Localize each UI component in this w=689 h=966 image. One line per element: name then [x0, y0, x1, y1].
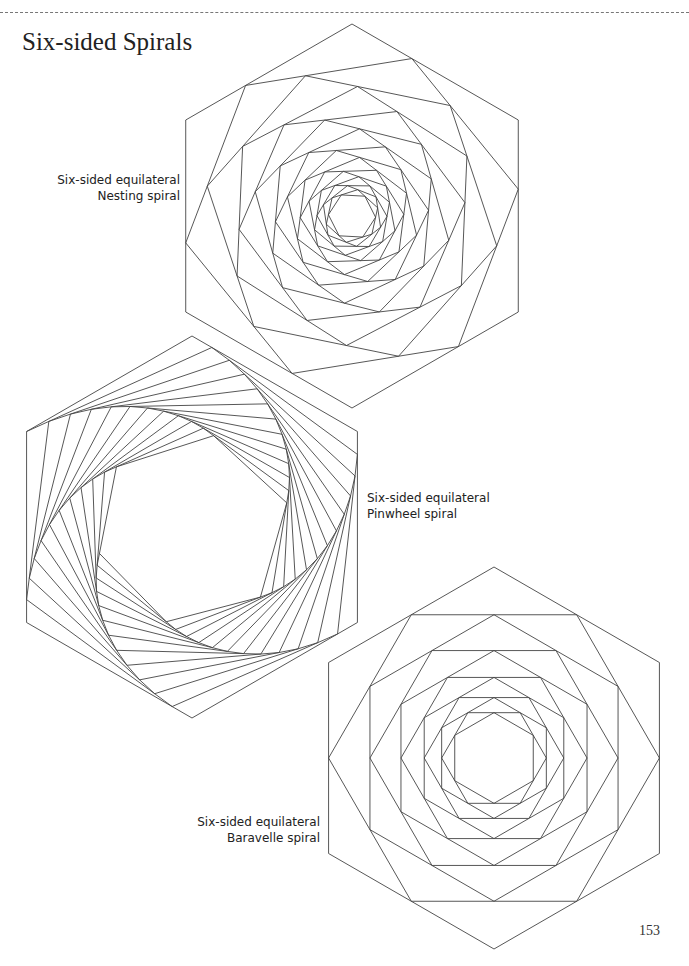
nesting-label-line1: Six-sided equilateral: [40, 172, 180, 188]
pinwheel-spiral-figure: [27, 336, 358, 718]
baravelle-spiral-label: Six-sided equilateral Baravelle spiral: [160, 814, 320, 846]
pinwheel-label-line2: Pinwheel spiral: [367, 506, 527, 522]
baravelle-label-line2: Baravelle spiral: [160, 830, 320, 846]
baravelle-label-line1: Six-sided equilateral: [160, 814, 320, 830]
pinwheel-spiral-label: Six-sided equilateral Pinwheel spiral: [367, 490, 527, 522]
nesting-label-line2: Nesting spiral: [40, 188, 180, 204]
baravelle-spiral-figure: [329, 567, 660, 949]
nesting-spiral-figure: [186, 24, 519, 408]
nesting-spiral-label: Six-sided equilateral Nesting spiral: [40, 172, 180, 204]
spiral-drawings: [0, 0, 689, 966]
page-number: 153: [639, 923, 660, 939]
pinwheel-label-line1: Six-sided equilateral: [367, 490, 527, 506]
